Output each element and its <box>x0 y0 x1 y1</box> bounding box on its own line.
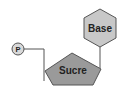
sugar-label: Sucre <box>59 65 87 76</box>
nucleotide-diagram: Base Sucre P <box>0 0 129 86</box>
sugar-node: Sucre <box>45 53 101 85</box>
phosphate-label: P <box>15 45 20 54</box>
phosphate-node: P <box>12 43 24 55</box>
base-node: Base <box>84 9 116 47</box>
phosphate-sugar-connector <box>24 49 44 81</box>
base-label: Base <box>88 23 112 34</box>
